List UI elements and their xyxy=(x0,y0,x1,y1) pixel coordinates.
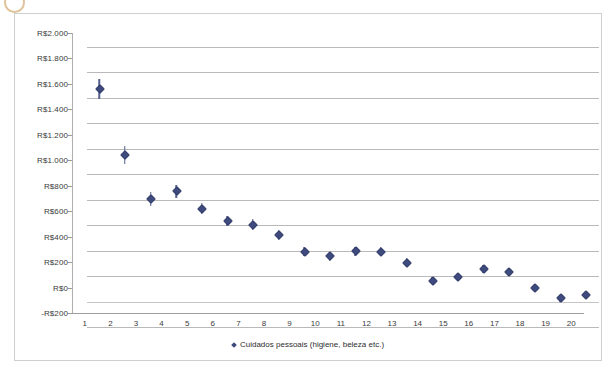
diamond-marker xyxy=(325,251,335,261)
chart-frame xyxy=(14,13,602,361)
y-tick-label: R$2.000 xyxy=(37,29,68,38)
gridline xyxy=(87,174,599,175)
x-tick-label: 6 xyxy=(211,319,215,328)
diamond-marker xyxy=(351,246,361,256)
legend-diamond-marker xyxy=(231,342,237,348)
x-tick-label: 17 xyxy=(490,319,499,328)
diamond-marker xyxy=(402,258,412,268)
x-tick-label: 3 xyxy=(134,319,138,328)
gridline xyxy=(87,200,599,201)
x-tick-label: 18 xyxy=(516,319,525,328)
x-tick-label: 19 xyxy=(541,319,550,328)
gridline xyxy=(87,123,599,124)
diamond-marker xyxy=(530,283,540,293)
y-tick-label: -R$200 xyxy=(41,309,68,318)
y-tick-mark xyxy=(68,186,72,187)
x-tick-label: 8 xyxy=(262,319,266,328)
y-tick-mark xyxy=(68,33,72,34)
x-tick-label: 10 xyxy=(311,319,320,328)
y-axis-labels: R$2.000R$1.800R$1.600R$1.400R$1.200R$1.0… xyxy=(0,0,68,378)
diamond-marker xyxy=(581,290,591,300)
y-tick-label: R$0 xyxy=(53,283,68,292)
y-tick-mark xyxy=(68,211,72,212)
diamond-marker xyxy=(453,272,463,282)
y-tick-mark xyxy=(68,288,72,289)
diamond-marker xyxy=(172,187,182,197)
gridline xyxy=(87,98,599,99)
gridline xyxy=(87,225,599,226)
x-axis-line xyxy=(72,313,584,314)
x-tick-label: 15 xyxy=(439,319,448,328)
y-tick-mark xyxy=(68,58,72,59)
y-tick-label: R$400 xyxy=(44,232,68,241)
y-tick-label: R$1.800 xyxy=(37,54,68,63)
y-tick-label: R$1.000 xyxy=(37,156,68,165)
diamond-marker xyxy=(376,247,386,257)
diamond-marker xyxy=(274,230,284,240)
diamond-marker xyxy=(300,247,310,257)
y-tick-mark xyxy=(68,262,72,263)
x-tick-label: 20 xyxy=(567,319,576,328)
gridline xyxy=(87,47,599,48)
y-tick-label: R$800 xyxy=(44,181,68,190)
diamond-marker xyxy=(95,84,105,94)
gridline xyxy=(87,276,599,277)
diamond-marker xyxy=(197,204,207,214)
x-tick-label: 11 xyxy=(337,319,345,328)
y-tick-label: R$1.200 xyxy=(37,130,68,139)
y-tick-mark xyxy=(68,237,72,238)
y-tick-label: R$600 xyxy=(44,207,68,216)
y-tick-mark xyxy=(68,84,72,85)
diamond-marker xyxy=(248,220,258,230)
diamond-marker xyxy=(146,194,156,204)
gridline xyxy=(87,149,599,150)
x-tick-label: 1 xyxy=(83,319,87,328)
diamond-marker xyxy=(120,150,130,160)
x-tick-label: 14 xyxy=(413,319,422,328)
plot-area xyxy=(87,47,599,327)
gridline xyxy=(87,251,599,252)
gridline xyxy=(87,302,599,303)
chart-legend: Cuidados pessoais (higiene, beleza etc.) xyxy=(0,340,616,349)
gridline xyxy=(87,72,599,73)
y-tick-mark xyxy=(68,109,72,110)
diamond-marker xyxy=(479,264,489,274)
y-tick-mark xyxy=(68,160,72,161)
x-tick-label: 9 xyxy=(287,319,291,328)
x-tick-label: 12 xyxy=(362,319,371,328)
y-tick-label: R$200 xyxy=(44,258,68,267)
y-tick-label: R$1.600 xyxy=(37,79,68,88)
legend-series-label: Cuidados pessoais (higiene, beleza etc.) xyxy=(240,340,384,349)
y-tick-mark xyxy=(68,313,72,314)
x-tick-label: 16 xyxy=(464,319,473,328)
x-tick-label: 7 xyxy=(236,319,240,328)
x-tick-label: 4 xyxy=(159,319,163,328)
y-tick-label: R$1.400 xyxy=(37,105,68,114)
x-tick-label: 2 xyxy=(108,319,112,328)
x-tick-label: 13 xyxy=(388,319,397,328)
x-tick-label: 5 xyxy=(185,319,189,328)
y-axis-line xyxy=(72,33,73,314)
y-tick-mark xyxy=(68,135,72,136)
